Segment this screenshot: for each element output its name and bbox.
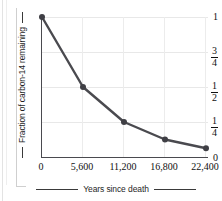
plot-area [41,17,208,158]
x-axis-title: Years since death [20,183,212,195]
fraction-denominator: 2 [211,93,218,104]
fraction-numerator: 3 [211,46,218,58]
data-point-0 [39,14,45,20]
decay-curve [41,17,208,158]
y-axis-title-rule-left [22,147,23,158]
data-point-5600 [80,84,86,90]
carbon-14-decay-figure: Fraction of carbon-14 remaining 1 3 4 1 … [0,0,222,201]
data-point-11200 [121,119,127,125]
y-axis-title: Fraction of carbon-14 remaining [15,19,29,151]
fraction-3-4: 3 4 [211,46,218,68]
data-point-22400 [203,145,209,151]
fraction-1-4: 1 4 [211,116,218,138]
x-tick-label-5600: 5,600 [60,161,104,172]
x-tick-label-22400: 22,400 [183,161,222,172]
x-axis-title-rule-left [36,189,78,190]
x-axis-title-text: Years since death [83,184,149,194]
decay-curve-line [42,17,206,148]
data-point-16800 [162,137,168,143]
y-axis-title-text: Fraction of carbon-14 remaining [17,27,27,143]
x-tick-label-16800: 16,800 [142,161,186,172]
y-axis-title-rule-right [22,12,23,23]
fraction-numerator: 1 [211,116,218,128]
fraction-1-2: 1 2 [211,81,218,103]
fraction-denominator: 4 [211,58,218,69]
fraction-denominator: 4 [211,128,218,139]
page-edge-line-secondary [6,0,7,185]
page-edge-line [2,0,3,201]
x-axis-title-rule-right [154,189,196,190]
decay-curve-markers [39,14,209,151]
fraction-numerator: 1 [211,81,218,93]
x-tick-label-0: 0 [19,161,63,172]
x-tick-label-11200: 11,200 [101,161,145,172]
